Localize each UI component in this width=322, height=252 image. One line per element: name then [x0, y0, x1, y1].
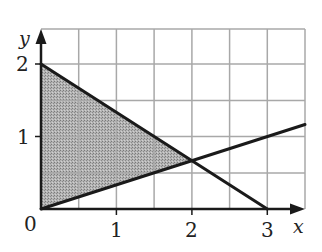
y-tick-label-1: 1 [17, 125, 30, 149]
graph-figure: y x 2 1 0 1 2 3 [0, 0, 322, 252]
x-tick-label-3: 3 [261, 218, 274, 242]
y-tick-label-2: 2 [16, 52, 29, 76]
x-axis-arrow-icon [290, 204, 305, 215]
origin-label: 0 [24, 212, 37, 236]
x-axis-label: x [293, 215, 304, 237]
x-tick-label-1: 1 [110, 218, 123, 242]
y-axis-label: y [18, 27, 30, 49]
y-axis-arrow-icon [36, 29, 47, 44]
x-tick-label-2: 2 [185, 218, 198, 242]
